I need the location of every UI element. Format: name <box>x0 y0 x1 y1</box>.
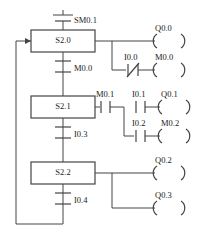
transition-i0-3-label: I0.3 <box>74 130 87 139</box>
coil-m0-2-label: M0.2 <box>161 119 179 128</box>
step-s2-0-label: S2.0 <box>31 36 95 45</box>
contact-i0-2-symbol[interactable] <box>136 130 160 142</box>
contact-m0-1-symbol[interactable] <box>101 101 124 113</box>
link-s2-1-to-s2-2 <box>55 118 71 162</box>
contact-i0-0-symbol[interactable] <box>127 63 155 77</box>
contact-i0-1-label: I0.1 <box>132 90 145 99</box>
coil-q0-2-symbol[interactable] <box>153 166 185 180</box>
contact-i0-0-label: I0.0 <box>124 53 137 62</box>
coil-m0-0-symbol[interactable] <box>153 63 185 77</box>
coil-q0-3-symbol[interactable] <box>153 201 185 215</box>
step-s2-2-label: S2.2 <box>31 168 95 177</box>
rung-s2-2 <box>95 173 155 208</box>
transition-sm0-1-symbol[interactable] <box>55 21 71 30</box>
ladder-diagram-canvas: SM0.1 S2.0 Q0.0 I0.0 M0.0 M0.0 S2.1 M0.1… <box>0 0 208 234</box>
step-s2-1-label: S2.1 <box>31 102 95 111</box>
coil-m0-2-symbol[interactable] <box>158 129 190 143</box>
top-power-stub <box>53 10 73 15</box>
coil-q0-0-label: Q0.0 <box>155 24 172 33</box>
feedback-arrow-into-s2-0 <box>16 38 31 44</box>
coil-m0-0-label: M0.0 <box>155 53 173 62</box>
link-s2-0-to-s2-1 <box>55 52 71 96</box>
coil-q0-0-symbol[interactable] <box>153 34 185 48</box>
contact-i0-1-symbol[interactable] <box>136 101 160 113</box>
coil-q0-1-symbol[interactable] <box>158 100 190 114</box>
transition-sm0-1-label: SM0.1 <box>74 16 97 25</box>
contact-m0-1-label: M0.1 <box>96 90 114 99</box>
transition-i0-4-label: I0.4 <box>74 196 87 205</box>
coil-q0-3-label: Q0.3 <box>155 191 172 200</box>
contact-i0-2-label: I0.2 <box>132 119 145 128</box>
transition-m0-0-label: M0.0 <box>74 64 92 73</box>
coil-q0-2-label: Q0.2 <box>155 156 172 165</box>
coil-q0-1-label: Q0.1 <box>161 90 178 99</box>
